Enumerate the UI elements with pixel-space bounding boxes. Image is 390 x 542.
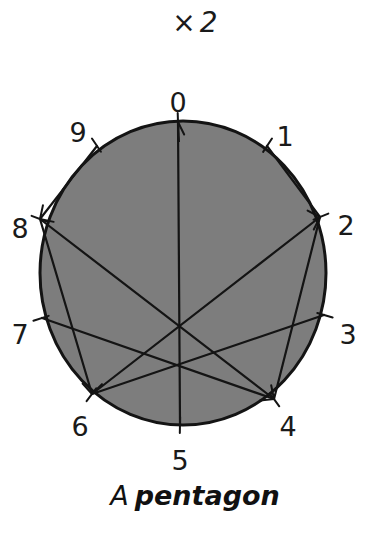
caption-shape-name: pentagon xyxy=(135,480,280,511)
point-label-9: 9 xyxy=(69,117,86,148)
point-label-8: 8 xyxy=(11,213,28,244)
point-label-5: 5 xyxy=(171,445,188,476)
point-label-6: 6 xyxy=(71,411,88,442)
self-map-tick-0 xyxy=(178,122,179,142)
caption-article: A xyxy=(110,480,128,511)
point-label-1: 1 xyxy=(276,121,293,152)
point-label-2: 2 xyxy=(337,210,354,241)
point-label-3: 3 xyxy=(339,319,356,350)
diagram-caption: Apentagon xyxy=(0,480,390,511)
point-tick-8 xyxy=(32,216,47,222)
point-label-4: 4 xyxy=(279,411,296,442)
modular-circle-diagram: 0123456789 xyxy=(0,0,390,542)
point-label-7: 7 xyxy=(11,319,28,350)
point-label-0: 0 xyxy=(169,87,186,118)
